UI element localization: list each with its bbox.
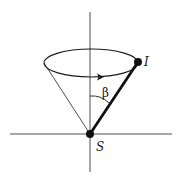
point-s-dot (86, 130, 94, 138)
cone-left-side (44, 63, 90, 134)
cone-rim-ellipse (44, 49, 138, 77)
angle-label-beta: β (102, 86, 109, 100)
precession-cone-diagram: β I S (0, 0, 180, 181)
point-i-dot (134, 58, 142, 66)
point-i-label: I (143, 55, 149, 69)
point-s-label: S (96, 140, 104, 154)
spin-vector (90, 62, 138, 134)
